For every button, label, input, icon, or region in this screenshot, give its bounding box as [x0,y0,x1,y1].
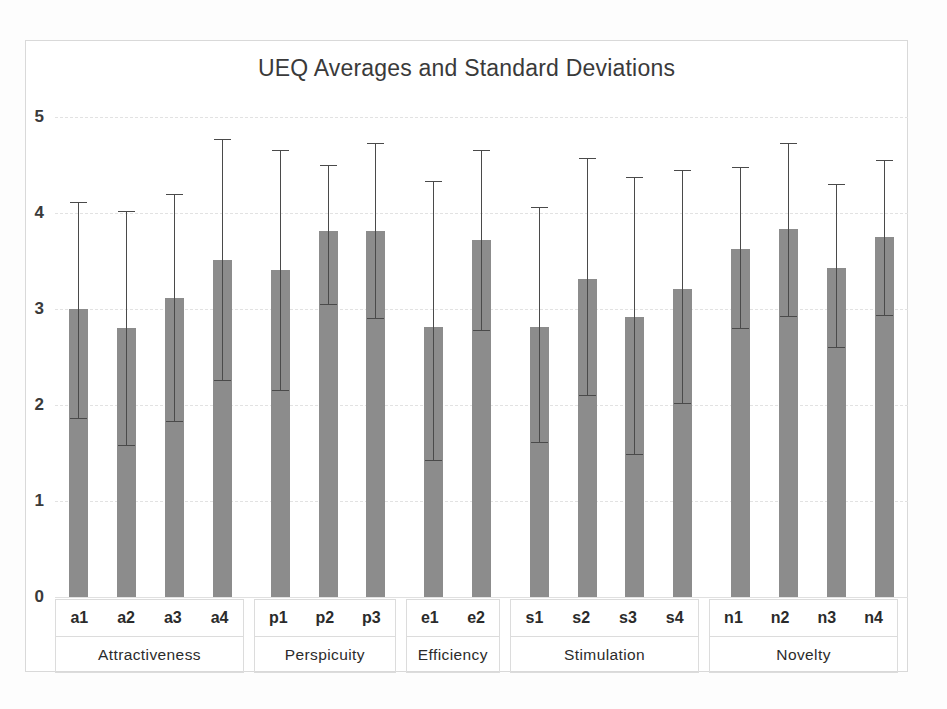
category-label-p3: p3 [348,600,395,636]
bar-group-n1 [731,117,750,597]
y-tick-label-1: 1 [35,491,44,511]
category-label-a2: a2 [103,600,150,636]
category-label-p2: p2 [302,600,349,636]
error-cap-top-n2 [780,143,797,144]
error-cap-top-a4 [214,139,231,140]
group-label-efficiency: Efficiency [406,637,500,673]
bar-group-n2 [779,117,798,597]
bar-group-a4 [213,117,232,597]
error-cap-bottom-n2 [780,316,797,317]
category-label-s1: s1 [511,600,558,636]
bar-group-p1 [271,117,290,597]
error-cap-top-s4 [674,170,691,171]
error-cap-bottom-e1 [425,460,442,461]
category-label-s3: s3 [605,600,652,636]
error-bar-p3 [375,143,376,319]
plot-area: 012345 [55,117,908,597]
bar-group-a1 [69,117,88,597]
y-tick-label-3: 3 [35,299,44,319]
y-tick-label-5: 5 [35,107,44,127]
category-label-p1: p1 [255,600,302,636]
error-bar-n2 [788,143,789,317]
error-bar-p1 [280,150,281,391]
error-bar-n4 [884,160,885,316]
category-label-s4: s4 [651,600,698,636]
error-bar-a2 [126,211,127,446]
y-tick-label-4: 4 [35,203,44,223]
error-bar-s2 [587,158,588,396]
category-label-a3: a3 [149,600,196,636]
error-cap-bottom-a2 [118,445,135,446]
error-bar-s4 [682,170,683,404]
error-bar-s1 [539,207,540,443]
error-cap-bottom-p2 [320,304,337,305]
error-cap-bottom-e2 [473,330,490,331]
group-name-row: AttractivenessPerspicuityEfficiencyStimu… [55,637,908,673]
error-cap-top-a2 [118,211,135,212]
group-label-stimulation: Stimulation [510,637,699,673]
category-label-n3: n3 [804,600,851,636]
y-tick-label-2: 2 [35,395,44,415]
category-label-a4: a4 [196,600,243,636]
bar-group-p3 [366,117,385,597]
error-cap-top-p2 [320,165,337,166]
bar-group-s1 [530,117,549,597]
error-bar-p2 [328,165,329,305]
error-cap-top-s3 [626,177,643,178]
error-cap-top-p3 [367,143,384,144]
name-cells-stimulation: s1s2s3s4 [510,599,699,637]
bar-group-p2 [319,117,338,597]
error-cap-top-e2 [473,150,490,151]
error-cap-bottom-a1 [70,418,87,419]
error-cap-top-s2 [579,158,596,159]
error-cap-bottom-p1 [272,390,289,391]
error-cap-top-n4 [876,160,893,161]
category-label-a1: a1 [56,600,103,636]
error-bar-n3 [836,184,837,348]
category-label-n4: n4 [850,600,897,636]
error-cap-top-p1 [272,150,289,151]
name-cells-perspicuity: p1p2p3 [254,599,396,637]
category-name-row: a1a2a3a4p1p2p3e1e2s1s2s3s4n1n2n3n4 [55,599,908,637]
category-label-e2: e2 [453,600,499,636]
error-bar-a4 [222,139,223,381]
error-cap-bottom-n4 [876,315,893,316]
name-cells-attractiveness: a1a2a3a4 [55,599,244,637]
error-cap-bottom-s2 [579,395,596,396]
bar-group-s4 [673,117,692,597]
error-cap-top-a3 [166,194,183,195]
error-cap-bottom-p3 [367,318,384,319]
error-bar-a1 [78,202,79,419]
error-cap-top-e1 [425,181,442,182]
bar-group-e2 [472,117,491,597]
category-label-table: a1a2a3a4p1p2p3e1e2s1s2s3s4n1n2n3n4 Attra… [55,599,908,671]
bar-group-a3 [165,117,184,597]
error-cap-bottom-a4 [214,380,231,381]
error-cap-bottom-s4 [674,403,691,404]
group-label-novelty: Novelty [709,637,898,673]
error-cap-top-n3 [828,184,845,185]
bar-group-n3 [827,117,846,597]
name-cells-efficiency: e1e2 [406,599,500,637]
error-bar-n1 [740,167,741,329]
bar-group-s3 [625,117,644,597]
error-cap-bottom-s3 [626,454,643,455]
error-cap-bottom-n3 [828,347,845,348]
gridline-0 [55,597,908,598]
error-cap-bottom-a3 [166,421,183,422]
bar-group-e1 [424,117,443,597]
error-bar-e2 [481,150,482,331]
error-bar-s3 [634,177,635,454]
bar-group-a2 [117,117,136,597]
category-label-n1: n1 [710,600,757,636]
name-cells-novelty: n1n2n3n4 [709,599,898,637]
chart-page: UEQ Averages and Standard Deviations 012… [0,0,947,709]
category-label-e1: e1 [407,600,453,636]
error-cap-top-a1 [70,202,87,203]
category-label-s2: s2 [558,600,605,636]
error-bar-e1 [433,181,434,460]
error-cap-top-s1 [531,207,548,208]
error-bar-a3 [174,194,175,422]
error-cap-bottom-s1 [531,442,548,443]
category-label-n2: n2 [757,600,804,636]
